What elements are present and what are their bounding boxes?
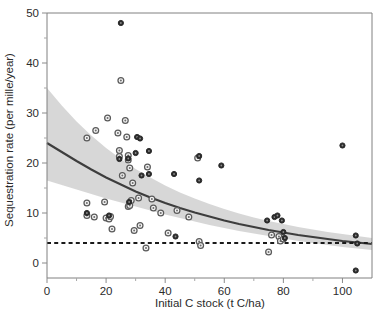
data-point-open (136, 195, 142, 201)
data-point-filled (106, 213, 111, 218)
data-point-open (145, 164, 151, 170)
data-point-filled (279, 218, 284, 223)
data-point-filled (146, 148, 151, 153)
data-point-open (143, 245, 149, 251)
x-tick-label: 80 (277, 285, 290, 297)
data-point-open (84, 135, 90, 141)
x-tick-label: 60 (218, 285, 231, 297)
data-point-filled (173, 234, 178, 239)
x-tick-label: 100 (333, 285, 352, 297)
y-axis-title: Sequestration rate (per mille/year) (3, 53, 15, 227)
data-point-open (198, 243, 204, 249)
data-point-filled (146, 171, 151, 176)
data-point-open (186, 214, 192, 220)
data-point-open (116, 148, 122, 154)
y-tick-label: 20 (26, 157, 39, 169)
confidence-band-path (47, 88, 372, 250)
data-point-open (266, 249, 272, 255)
x-tick-label: 20 (100, 285, 113, 297)
data-point-open (158, 210, 164, 216)
data-point-filled (282, 235, 287, 240)
data-point-open (131, 228, 137, 234)
y-tick-label: 50 (26, 7, 39, 19)
data-point-open (105, 115, 111, 121)
data-point-open (150, 205, 156, 211)
y-tick-label: 0 (33, 257, 39, 269)
data-point-open (109, 226, 115, 232)
data-point-open (119, 173, 125, 179)
data-point-filled (126, 156, 131, 161)
data-point-filled (353, 268, 358, 273)
y-tick-label: 10 (26, 207, 39, 219)
data-point-open (115, 130, 121, 136)
chart-figure: 020406080100 01020304050 Initial C stock… (0, 0, 385, 321)
data-point-open (93, 128, 99, 134)
x-axis-title: Initial C stock (t C/ha) (155, 297, 265, 309)
y-tick-label: 30 (26, 107, 39, 119)
data-point-filled (281, 229, 286, 234)
data-point-open (174, 208, 180, 214)
data-point-filled (171, 171, 176, 176)
data-point-filled (133, 150, 138, 155)
data-point-filled (355, 241, 360, 246)
data-point-open (91, 214, 97, 220)
data-point-open (102, 199, 108, 205)
data-point-filled (275, 213, 280, 218)
data-point-open (165, 230, 171, 236)
data-point-open (149, 196, 155, 202)
confidence-band (47, 88, 372, 250)
data-point-open (130, 180, 136, 186)
data-point-open (137, 223, 143, 229)
data-point-open (84, 200, 90, 206)
data-point-filled (197, 178, 202, 183)
data-point-filled (265, 218, 270, 223)
data-point-filled (117, 156, 122, 161)
data-point-filled (353, 233, 358, 238)
x-tick-label: 40 (159, 285, 172, 297)
data-point-filled (340, 143, 345, 148)
data-point-open (122, 118, 128, 124)
data-point-open (118, 78, 124, 84)
data-point-filled (137, 136, 142, 141)
y-axis-ticks: 01020304050 (26, 7, 47, 269)
scatter-plot: 020406080100 01020304050 Initial C stock… (0, 0, 385, 321)
y-tick-label: 40 (26, 57, 39, 69)
x-axis-ticks: 020406080100 (44, 278, 352, 297)
data-point-filled (139, 173, 144, 178)
data-point-filled (127, 199, 132, 204)
data-point-filled (84, 210, 89, 215)
data-point-open (269, 232, 275, 238)
data-point-filled (197, 153, 202, 158)
data-point-open (127, 165, 133, 171)
data-point-filled (118, 20, 123, 25)
x-tick-label: 0 (44, 285, 50, 297)
data-point-filled (219, 163, 224, 168)
data-point-open (124, 134, 130, 140)
